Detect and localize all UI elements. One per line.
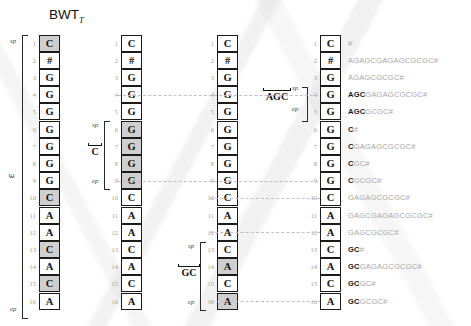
pattern-overline [88, 145, 102, 146]
bwt-cell: C [217, 275, 238, 292]
row-number: 15 [104, 275, 120, 292]
bwt-cell: G [121, 121, 142, 138]
ep-label-col-4: ep [292, 105, 298, 112]
suffix-remainder: GAGAGCGCGC# [354, 142, 416, 151]
bracket-col-4 [302, 87, 308, 122]
bwt-cell: A [39, 258, 60, 275]
suffix-entry: GC# [348, 241, 364, 258]
bwt-cell: C [39, 35, 60, 52]
bwt-cell: A [121, 224, 142, 241]
pattern-overline [178, 266, 200, 267]
dash-connector [210, 301, 320, 302]
bwt-cell: G [217, 155, 238, 172]
bwt-cell: G [320, 155, 341, 172]
bwt-cell: A [39, 224, 60, 241]
dash-connector [210, 198, 320, 199]
row-number: 11 [303, 207, 319, 224]
suffix-remainder: GAGAGCGCGC# [348, 193, 410, 202]
bwt-cell: C [121, 241, 142, 258]
sp-label-col-2: sp [92, 121, 98, 128]
suffix-entry: GAGCGCGC# [348, 224, 399, 241]
sp-label-col-4: sp [292, 84, 298, 91]
row-number: 2 [200, 52, 216, 69]
bwt-cell: G [39, 69, 60, 86]
suffix-entry: CGC# [348, 155, 370, 172]
bwt-cell: A [39, 293, 60, 310]
row-number: 5 [200, 103, 216, 120]
row-number: 13 [104, 241, 120, 258]
suffix-entry: CGCGC# [348, 172, 381, 189]
bwt-cell: C [217, 35, 238, 52]
bwt-cell: G [39, 172, 60, 189]
bracket-col-3 [200, 242, 206, 312]
row-number: 3 [200, 69, 216, 86]
bwt-cell: G [121, 103, 142, 120]
row-number: 3 [104, 69, 120, 86]
suffix-matched-prefix: GC [348, 279, 360, 288]
dash-connector [210, 232, 320, 233]
bwt-cell: # [121, 52, 142, 69]
row-number: 12 [104, 224, 120, 241]
suffix-remainder: GCGC# [354, 176, 382, 185]
bwt-cell: A [320, 258, 341, 275]
bwt-title-subscript: T [79, 15, 84, 25]
bwt-cell: G [39, 138, 60, 155]
pattern-label-c: C [88, 145, 102, 157]
suffix-entry: AGCGCGC# [348, 103, 393, 120]
row-number: 1 [104, 35, 120, 52]
bwt-cell: A [320, 224, 341, 241]
suffix-entry: GCGCGC# [348, 293, 387, 310]
bwt-cell: A [320, 207, 341, 224]
pattern-text-gc: GC [178, 268, 200, 278]
suffix-remainder: AGAGCGCGC# [348, 73, 404, 82]
bwt-cell: C [320, 241, 341, 258]
bwt-cell: G [320, 69, 341, 86]
bwt-cell: G [320, 103, 341, 120]
bwt-cell: G [217, 138, 238, 155]
ep-label-col-1: ep [10, 305, 16, 312]
suffix-remainder: GAGCGCGC# [348, 228, 399, 237]
bwt-cell: G [217, 69, 238, 86]
row-number: 8 [303, 155, 319, 172]
row-number: 14 [104, 258, 120, 275]
suffix-matched-prefix: GC [348, 262, 360, 271]
pattern-label-gc: GC [178, 266, 200, 278]
row-number: 10 [104, 189, 120, 206]
bwt-cell: C [39, 275, 60, 292]
bwt-cell: G [121, 155, 142, 172]
bwt-cell: G [217, 103, 238, 120]
pattern-text-agc: AGC [263, 92, 291, 102]
bwt-cell: C [39, 241, 60, 258]
bwt-cell: G [217, 121, 238, 138]
suffix-entry: GCGC# [348, 275, 376, 292]
suffix-remainder: # [360, 245, 364, 254]
page-title: BWTT [49, 7, 84, 25]
suffix-remainder: # [348, 39, 352, 48]
bwt-cell: # [320, 52, 341, 69]
pattern-text-c: C [88, 147, 102, 157]
bwt-cell: A [217, 258, 238, 275]
row-number: 16 [104, 293, 120, 310]
bwt-cell: G [121, 69, 142, 86]
suffix-remainder: AGAGCGAGAGCGCGC# [348, 56, 438, 65]
dash-connector [118, 95, 318, 96]
row-number: 5 [104, 103, 120, 120]
suffix-matched-prefix: AGC [348, 90, 365, 99]
suffix-matched-prefix: GC [348, 297, 360, 306]
suffix-matched-prefix: AGC [348, 107, 365, 116]
row-number: 2 [104, 52, 120, 69]
bwt-cell: G [39, 155, 60, 172]
epsilon-label: ε [4, 174, 16, 179]
suffix-remainder: GAGCGAGAGCGCGC# [348, 211, 433, 220]
suffix-entry: CGAGAGCGCGC# [348, 138, 416, 155]
bwt-cell: G [320, 138, 341, 155]
bwt-cell: A [121, 293, 142, 310]
bracket-col-2 [104, 121, 110, 191]
row-number: 1 [303, 35, 319, 52]
suffix-remainder: GC# [360, 279, 376, 288]
suffix-entry: GAGCGAGAGCGCGC# [348, 207, 433, 224]
suffix-entry: C# [348, 121, 358, 138]
ep-label-col-2: ep [92, 177, 98, 184]
figure-stage: BWTT 1C2#3G4G5G6G7G8G9G10C11A12A13C14A15… [0, 0, 471, 326]
row-number: 3 [303, 69, 319, 86]
